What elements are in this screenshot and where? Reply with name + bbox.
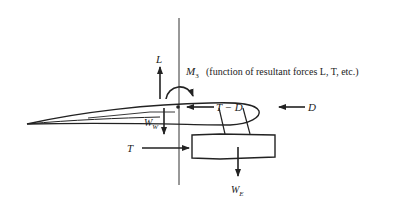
moment-label: M3 (function of resultant forces L, T, e… <box>185 65 359 80</box>
engine-weight-label: WE <box>231 184 244 198</box>
thrust-label: T <box>127 142 134 154</box>
spar-line <box>88 112 175 118</box>
svg-text:M3: M3 <box>185 65 199 80</box>
force-center-point <box>176 105 180 109</box>
thrust-minus-drag-label: T − D <box>216 101 243 113</box>
drag-label: D <box>307 101 316 113</box>
engine-nacelle <box>192 134 275 159</box>
lift-label: L <box>155 53 162 65</box>
moment-note: (function of resultant forces L, T, etc.… <box>206 66 359 78</box>
wing-weight-label: WW <box>144 117 159 131</box>
force-diagram: L M3 (function of resultant forces L, T,… <box>0 0 400 210</box>
